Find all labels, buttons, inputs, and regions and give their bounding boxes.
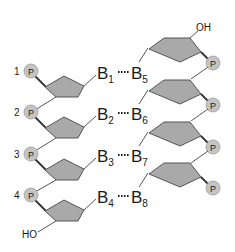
- phosphate-label: P: [28, 108, 34, 118]
- left-nucleotide-1: 1 P: [14, 64, 96, 110]
- phosphate-label: P: [210, 59, 216, 69]
- sugar-pentagon: [149, 80, 201, 104]
- sugar-pentagon: [149, 38, 201, 62]
- sugar-pentagon: [149, 163, 201, 187]
- base-pair-4: B4 B8: [97, 188, 148, 209]
- nucleotide-number-1: 1: [14, 66, 20, 77]
- right-nucleotide-7: P: [139, 122, 220, 163]
- sugar-pentagon: [149, 122, 201, 146]
- left-nucleotide-3: 3 P: [14, 147, 96, 192]
- base-right-7: B7: [131, 147, 148, 168]
- phosphate-label: P: [28, 67, 34, 77]
- phosphate-label: P: [210, 101, 216, 111]
- phosphate-label: P: [210, 143, 216, 153]
- nucleotide-number-3: 3: [14, 149, 20, 160]
- phosphate-label: P: [210, 184, 216, 194]
- phosphate-label: P: [28, 191, 34, 201]
- base-pair-2: B2 B6: [97, 105, 148, 126]
- base-right-6: B6: [131, 105, 148, 126]
- base-pair-3: B3 B7: [97, 147, 148, 168]
- dna-strand-diagram: 1 P 2 P 3 P 4 P HO B1: [0, 0, 235, 252]
- base-right-5: B5: [131, 64, 148, 85]
- phosphate-label: P: [28, 150, 34, 160]
- base-left-1: B1: [97, 64, 114, 85]
- nucleotide-number-2: 2: [14, 107, 20, 118]
- right-nucleotide-6: P: [139, 80, 220, 121]
- sugar-pentagon: [45, 117, 84, 138]
- nucleotide-number-4: 4: [14, 190, 20, 201]
- base-right-8: B8: [131, 188, 148, 209]
- base-left-3: B3: [97, 147, 114, 168]
- base-left-4: B4: [97, 188, 114, 209]
- sugar-pentagon: [45, 200, 84, 221]
- base-left-2: B2: [97, 105, 114, 126]
- left-nucleotide-2: 2 P: [14, 105, 96, 151]
- right-nucleotide-5: P: [139, 31, 220, 79]
- right-nucleotide-8: P: [139, 163, 220, 195]
- sugar-pentagon: [45, 76, 84, 97]
- hydroxyl-end-label: HO: [22, 229, 37, 240]
- base-pair-1: B1 B5: [97, 64, 148, 85]
- sugar-pentagon: [45, 159, 84, 180]
- left-nucleotide-4: 4 P HO: [14, 188, 96, 240]
